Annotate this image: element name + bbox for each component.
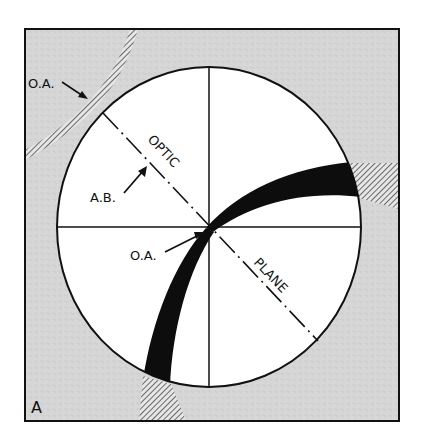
label-oa-center: O.A.	[130, 248, 157, 263]
label-oa-outer: O.A.	[28, 76, 55, 91]
label-ab: A.B.	[90, 190, 116, 205]
panel-label: A	[31, 398, 42, 417]
stereonet-diagram: O.A. OPTIC A.B. O.A. PLANE A	[0, 0, 421, 443]
